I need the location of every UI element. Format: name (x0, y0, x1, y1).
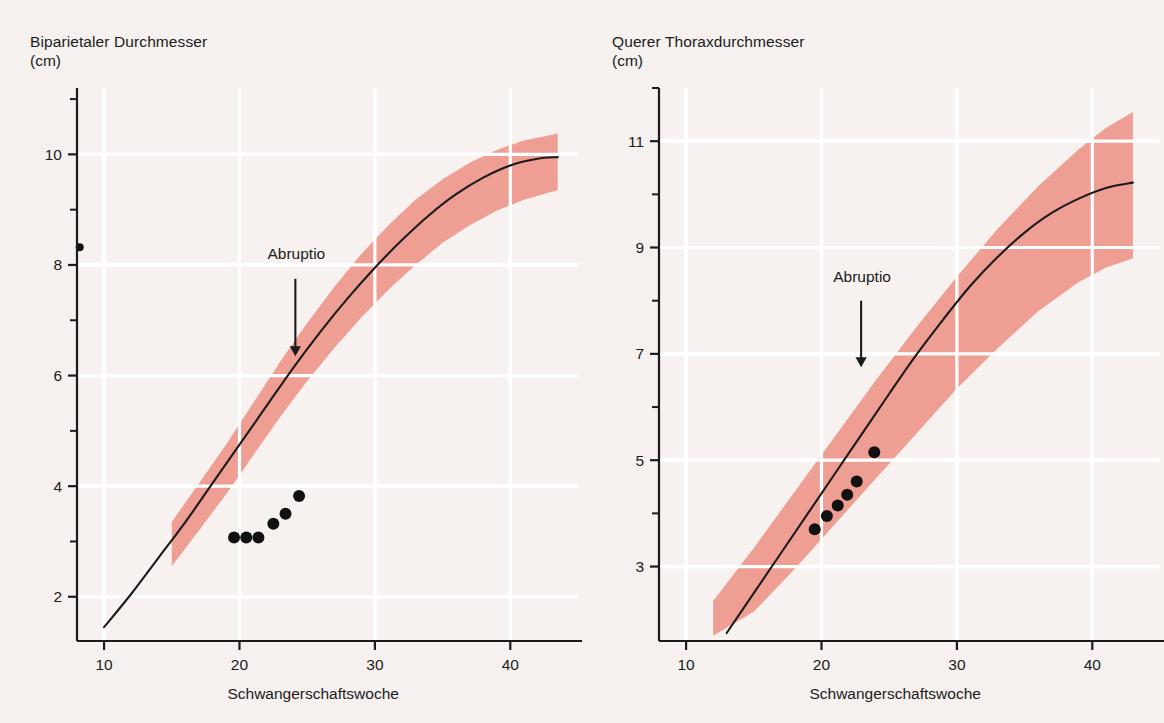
x-axis-tick-label: 40 (1084, 656, 1102, 673)
figure-page: Biparietaler Durchmesser (cm) Abruptio24… (0, 0, 1164, 723)
x-axis-tick-label: 40 (502, 656, 520, 673)
annotation-label: Abruptio (267, 245, 325, 262)
data-point (851, 475, 863, 487)
y-axis-tick-label: 7 (635, 345, 644, 362)
data-point (868, 446, 880, 458)
data-point (240, 532, 252, 544)
y-axis-tick-label: 10 (45, 146, 63, 163)
data-point (293, 490, 305, 502)
annotation-label: Abruptio (833, 268, 891, 285)
data-point (280, 508, 292, 520)
chart-panel-thoracic: Querer Thoraxdurchmesser (cm) Abruptio35… (582, 0, 1164, 723)
x-axis-tick-label: 20 (813, 656, 831, 673)
x-axis-tick-label: 10 (95, 656, 113, 673)
data-point (809, 523, 821, 535)
chart-panel-biparietal: Biparietaler Durchmesser (cm) Abruptio24… (0, 0, 582, 723)
y-axis-tick-label: 11 (628, 133, 644, 150)
x-axis-tick-label: 10 (677, 656, 695, 673)
data-point (252, 532, 264, 544)
data-point (228, 532, 240, 544)
data-point (821, 510, 833, 522)
data-point (267, 518, 279, 530)
y-axis-tick-label: 8 (53, 256, 62, 273)
y-axis-tick-label: 9 (635, 239, 644, 256)
x-axis-tick-label: 20 (231, 656, 249, 673)
data-point (832, 499, 844, 511)
y-axis-tick-label: 3 (635, 558, 644, 575)
x-axis-title: Schwangerschaftswoche (227, 685, 398, 702)
chart-canvas-left: Abruptio24681010203040Schwangerschaftswo… (0, 0, 582, 723)
y-axis-tick-label: 2 (53, 588, 62, 605)
x-axis-title: Schwangerschaftswoche (809, 685, 980, 702)
y-axis-tick-label: 6 (53, 367, 62, 384)
chart-canvas-right: Abruptio35791110203040Schwangerschaftswo… (582, 0, 1164, 723)
y-axis-tick-label: 5 (635, 452, 644, 469)
x-axis-tick-label: 30 (948, 656, 966, 673)
data-point (841, 489, 853, 501)
y-axis-tick-label: 4 (53, 478, 62, 495)
x-axis-tick-label: 30 (366, 656, 384, 673)
